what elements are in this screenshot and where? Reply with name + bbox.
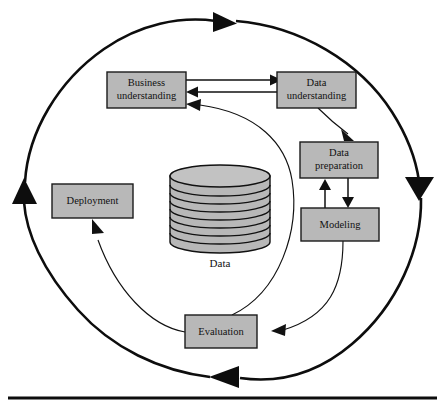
- data-understanding-label-line1: Data: [307, 77, 327, 88]
- data-store-cylinder: Data: [170, 165, 270, 269]
- arrowhead-data-to-business-understanding: [186, 87, 198, 98]
- arrowhead-evaluation-to-deployment: [92, 219, 104, 234]
- right-arrowhead: [405, 177, 434, 201]
- phase-box-modeling[interactable]: Modeling: [301, 208, 379, 241]
- arrowhead-modeling-to-evaluation: [271, 324, 286, 336]
- phase-box-data-preparation[interactable]: Data preparation: [300, 142, 378, 178]
- data-preparation-label-line1: Data: [329, 147, 349, 158]
- left-arrowhead: [12, 178, 37, 204]
- crisp-dm-figure: Data: [0, 0, 445, 413]
- modeling-label: Modeling: [320, 219, 362, 230]
- business-understanding-label-line2: understanding: [117, 90, 177, 101]
- data-store-label: Data: [210, 257, 231, 269]
- deployment-label: Deployment: [67, 195, 119, 206]
- data-understanding-label-line2: understanding: [287, 90, 347, 101]
- crisp-dm-diagram: Data: [0, 0, 445, 413]
- evaluation-label: Evaluation: [198, 326, 244, 337]
- top-arrowhead: [213, 12, 237, 32]
- arrow-evaluation-to-deployment: [98, 240, 185, 332]
- phase-box-evaluation[interactable]: Evaluation: [185, 315, 257, 348]
- arrowhead-data-preparation-to-modeling: [342, 197, 354, 208]
- data-preparation-label-line2: preparation: [315, 160, 364, 171]
- phase-box-data-understanding[interactable]: Data understanding: [277, 72, 356, 108]
- phase-box-business-understanding[interactable]: Business understanding: [107, 72, 186, 108]
- arrow-modeling-to-evaluation: [283, 241, 343, 330]
- arrowhead-evaluation-to-business-understanding: [186, 99, 201, 111]
- cylinder-top: [170, 165, 270, 187]
- arrowhead-modeling-to-data-preparation: [319, 179, 331, 190]
- business-understanding-label-line1: Business: [128, 77, 165, 88]
- arrow-data-understanding-to-data-preparation: [318, 108, 348, 134]
- bottom-arrowhead: [209, 366, 239, 388]
- phase-box-deployment[interactable]: Deployment: [52, 184, 133, 218]
